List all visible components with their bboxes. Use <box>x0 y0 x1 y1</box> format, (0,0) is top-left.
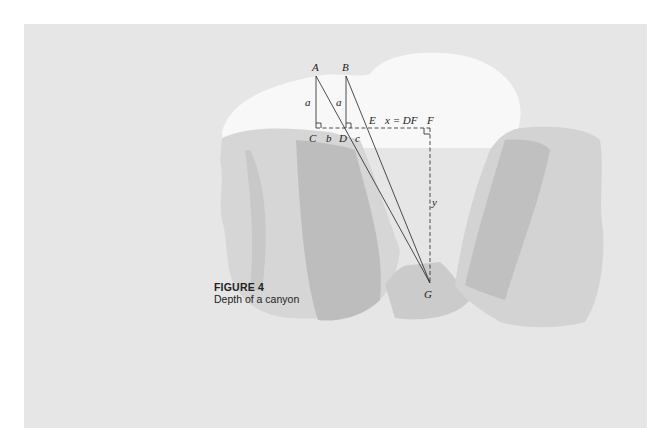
label-G: G <box>424 288 432 300</box>
label-x-eq-DF: x = DF <box>384 114 418 126</box>
label-a-right: a <box>336 96 342 108</box>
label-y: y <box>431 196 437 208</box>
figure-number: FIGURE 4 <box>214 281 299 293</box>
label-D: D <box>338 132 347 144</box>
label-c: c <box>355 132 360 144</box>
label-B: B <box>342 61 349 73</box>
figure-description: Depth of a canyon <box>214 293 299 305</box>
label-C: C <box>309 132 317 144</box>
label-b: b <box>326 132 332 144</box>
label-A: A <box>311 61 319 73</box>
label-E: E <box>368 114 376 126</box>
label-F: F <box>426 114 434 126</box>
label-a-left: a <box>305 96 311 108</box>
figure-caption: FIGURE 4 Depth of a canyon <box>214 281 299 305</box>
